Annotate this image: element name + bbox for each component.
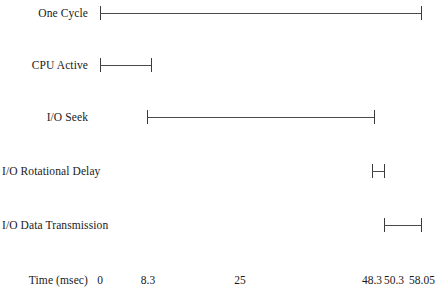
- timing-row: I/O Data Transmission: [0, 212, 440, 238]
- timing-row: CPU Active: [0, 52, 440, 78]
- row-label-io-data-transmission: I/O Data Transmission: [0, 212, 113, 238]
- timing-row: I/O Seek: [0, 104, 440, 130]
- bar-io-rotational-delay: [372, 158, 385, 184]
- axis-tick-label: 50.3: [384, 270, 404, 290]
- axis-tick-label: 25: [234, 270, 246, 290]
- bar-end-cap: [384, 164, 385, 178]
- axis-tick-label: 58.05: [409, 270, 435, 290]
- bar-end-cap: [421, 218, 422, 232]
- row-label-io-rotational-delay: I/O Rotational Delay: [0, 158, 113, 184]
- row-label-one-cycle: One Cycle: [0, 0, 88, 26]
- timing-row: I/O Rotational Delay: [0, 158, 440, 184]
- row-label-cpu-active: CPU Active: [0, 52, 88, 78]
- bar-line: [384, 225, 422, 226]
- axis-tick-label: 0: [97, 270, 103, 290]
- bar-io-seek: [147, 104, 375, 130]
- bar-line: [147, 117, 375, 118]
- bar-line: [100, 13, 422, 14]
- time-axis: Time (msec) 0 8.3 25 48.3 50.3 58.05: [0, 270, 440, 290]
- bar-end-cap: [374, 110, 375, 124]
- axis-tick-label: 48.3: [362, 270, 382, 290]
- bar-cpu-active: [100, 52, 152, 78]
- bar-io-data-transmission: [384, 212, 422, 238]
- row-label-io-seek: I/O Seek: [0, 104, 88, 130]
- timing-diagram: One Cycle CPU Active I/O Seek I/O Rotati…: [0, 0, 440, 301]
- bar-line: [100, 65, 152, 66]
- timing-row: One Cycle: [0, 0, 440, 26]
- bar-end-cap: [151, 58, 152, 72]
- bar-one-cycle: [100, 0, 422, 26]
- axis-title: Time (msec): [0, 270, 88, 290]
- axis-tick-label: 8.3: [141, 270, 155, 290]
- bar-end-cap: [421, 6, 422, 20]
